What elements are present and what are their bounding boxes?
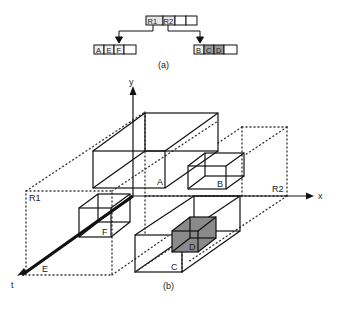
label-c: C — [171, 262, 178, 272]
right-cell-b: B — [196, 46, 201, 55]
box-d: D — [172, 217, 216, 252]
label-r2: R2 — [272, 184, 284, 194]
left-child-node: A E F — [94, 45, 136, 55]
arrow-down-icon — [197, 37, 204, 43]
box-b: B — [188, 153, 244, 189]
right-child-node: B C D — [194, 45, 237, 55]
x-axis-arrow-icon — [306, 193, 314, 200]
left-cell-e: E — [107, 46, 112, 55]
label-a: A — [157, 177, 163, 187]
y-axis-label: y — [129, 77, 134, 87]
arrow-down-icon — [116, 37, 123, 43]
left-cell-a: A — [96, 46, 101, 55]
label-e: E — [42, 264, 48, 274]
right-cell-d: D — [216, 46, 222, 55]
root-cell-r1: R1 — [148, 17, 158, 26]
root-node: R1 R2 — [146, 16, 197, 26]
label-r1: R1 — [29, 193, 41, 203]
box-a: A — [93, 113, 218, 188]
root-cell-r2: R2 — [164, 17, 174, 26]
left-cell-f: F — [117, 46, 122, 55]
label-b: B — [217, 179, 223, 189]
y-axis-arrow-icon — [130, 86, 137, 95]
x-axis-label: x — [318, 191, 323, 201]
label-f: F — [102, 227, 108, 237]
tree-connectors — [116, 25, 204, 43]
label-d: D — [189, 242, 196, 252]
caption-a: (a) — [158, 60, 169, 70]
t-axis-label: t — [11, 280, 14, 290]
rtree-diagram: R1 R2 A E F B C D (a) R1 — [0, 0, 337, 309]
caption-b: (b) — [163, 281, 174, 291]
right-cell-c: C — [206, 46, 212, 55]
